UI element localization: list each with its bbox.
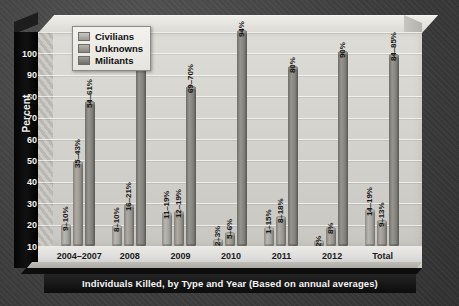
y-axis-tick-label: 100 [13,49,37,59]
bar-militants-2009 [186,88,196,246]
bar-value-label: 12–19% [174,189,183,218]
legend-item-militants: Militants [78,54,143,66]
y-axis-tick-label: 20 [13,220,37,230]
y-axis-panel-top [14,12,38,34]
legend-swatch-militants [78,56,90,65]
bar-militants-2011 [288,68,298,246]
x-axis-title: Individuals Killed, by Type and Year (Ba… [82,278,378,289]
x-axis-tick-label: Total [349,251,416,261]
bar-value-label: 84–85% [389,32,398,61]
bar-value-label: 9–10% [61,206,70,230]
legend-swatch-civilians [78,32,90,41]
bar-value-label: 90% [338,43,347,59]
bar-value-label: 2% [314,235,323,246]
bar-value-label: 80% [288,58,297,74]
x-axis-title-band: Individuals Killed, by Type and Year (Ba… [44,274,416,293]
bar-value-label: 54–61% [85,79,94,108]
y-axis-title: Percent [21,78,32,150]
bar-value-label: 69–70% [186,64,195,93]
gridline [38,139,422,140]
y-axis-tick-label: 40 [13,177,37,187]
bar-value-label: 94% [237,21,246,37]
legend-label-militants: Militants [95,55,134,66]
bar-value-label: 16–21% [124,183,133,212]
bar-militants-Total [389,56,399,246]
legend-label-civilians: Civilians [95,31,134,42]
y-axis-panel: 1009080706050403020100 [14,32,38,268]
bar-value-label: 11–19% [162,191,171,219]
y-axis-tick-label: 50 [13,156,37,166]
bar-value-label: 14–19% [365,187,374,216]
bar-value-label: 1–15% [264,209,273,233]
bar-value-label: 8–10% [112,207,121,231]
bar-militants-20042007 [85,103,95,246]
bar-militants-2012 [338,53,348,246]
bar-value-label: 8% [326,223,335,234]
chart-legend: Civilians Unknowns Militants [72,26,151,71]
legend-label-unknowns: Unknowns [95,43,143,54]
y-axis-tick-label: 30 [13,199,37,209]
bar-value-label: 2–3% [213,226,222,246]
legend-swatch-unknowns [78,44,90,53]
chart-3d-slab: 1009080706050403020100 Percent 9–10%35–4… [14,10,446,296]
gridline [38,75,422,76]
bar-value-label: 9–13% [377,203,386,227]
bar-value-label: 5–6% [225,219,234,239]
legend-item-unknowns: Unknowns [78,42,143,54]
legend-item-civilians: Civilians [78,30,143,42]
bar-militants-2008 [136,56,146,246]
gridline [38,160,422,161]
bar-unknowns-20042007 [73,163,83,246]
gridline [38,118,422,119]
chart-screenshot: 1009080706050403020100 Percent 9–10%35–4… [0,0,459,306]
bar-value-label: 35–43% [73,139,82,168]
gridline [38,182,422,183]
bar-value-label: 8–18% [276,199,285,223]
gridline [38,96,422,97]
bar-militants-2010 [237,32,247,246]
bar-unknowns-2008 [124,206,134,246]
y-axis-tick-label: 10 [13,242,37,252]
